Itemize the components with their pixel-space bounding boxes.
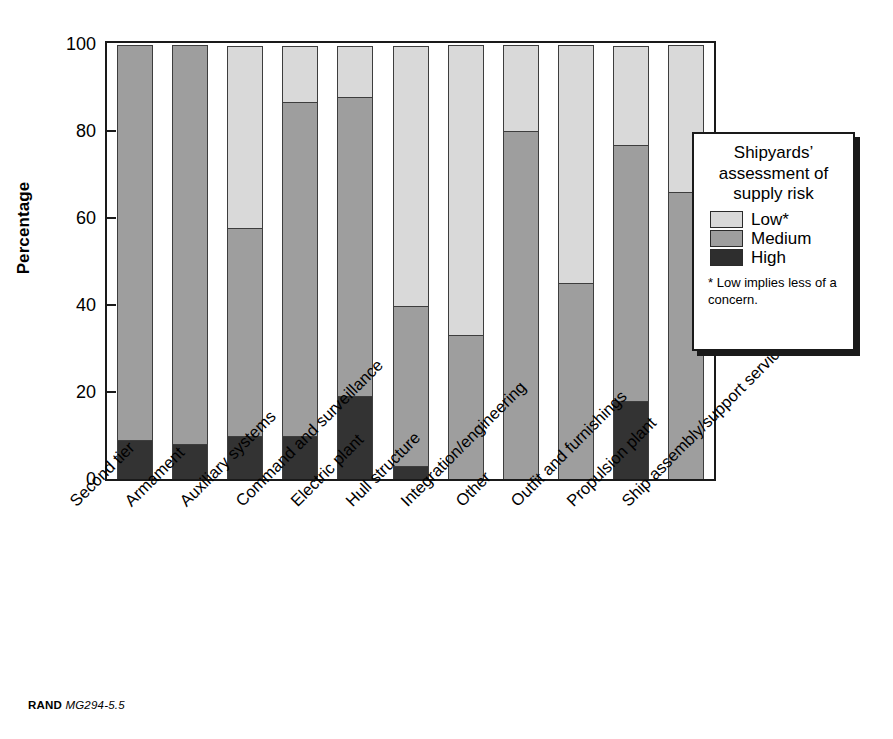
y-axis-tick-labels: 020406080100: [46, 0, 96, 739]
source-code: MG294-5.5: [65, 699, 124, 711]
legend-swatch-icon: [710, 249, 743, 266]
legend-item-label: High: [751, 249, 786, 266]
bar-segment-low[interactable]: [558, 45, 594, 284]
bar-column[interactable]: [503, 44, 539, 479]
legend: Shipyards’ assessment of supply risk Low…: [692, 132, 855, 351]
legend-footnote: * Low implies less of a concern.: [708, 275, 843, 308]
y-axis-title: Percentage: [14, 148, 34, 308]
legend-title: Shipyards’ assessment of supply risk: [704, 143, 843, 205]
bar-column[interactable]: [613, 44, 649, 479]
bar-segment-medium[interactable]: [613, 145, 649, 402]
bar-segment-low[interactable]: [613, 46, 649, 146]
bar-segment-medium[interactable]: [227, 228, 263, 437]
bar-segment-medium[interactable]: [172, 45, 208, 445]
y-axis-tick: [105, 217, 116, 219]
y-axis-tick: [105, 391, 116, 393]
bar-segment-medium[interactable]: [337, 97, 373, 397]
bars-layer: [105, 41, 716, 481]
y-axis-tick-label: 40: [50, 296, 96, 314]
bar-segment-medium[interactable]: [282, 102, 318, 437]
y-axis-tick: [105, 130, 116, 132]
bar-segment-low[interactable]: [503, 45, 539, 132]
bar-column[interactable]: [393, 44, 429, 479]
y-axis-tick: [105, 304, 116, 306]
legend-swatch-icon: [710, 230, 743, 247]
chart-figure: Percentage 020406080100 Second tierArmam…: [0, 0, 893, 739]
bar-segment-low[interactable]: [227, 46, 263, 229]
legend-item[interactable]: Medium: [710, 230, 843, 247]
legend-items: Low*MediumHigh: [704, 211, 843, 266]
legend-item-label: Low*: [751, 211, 789, 228]
legend-item[interactable]: High: [710, 249, 843, 266]
bar-segment-low[interactable]: [337, 46, 373, 98]
bar-column[interactable]: [282, 44, 318, 479]
bar-segment-medium[interactable]: [503, 131, 539, 479]
y-axis-tick-label: 100: [50, 35, 96, 53]
legend-swatch-icon: [710, 211, 743, 228]
legend-item-label: Medium: [751, 230, 811, 247]
y-axis-tick-label: 80: [50, 122, 96, 140]
source-brand: RAND: [28, 699, 62, 711]
bar-segment-low[interactable]: [393, 46, 429, 307]
y-axis-tick-label: 60: [50, 209, 96, 227]
bar-column[interactable]: [337, 44, 373, 479]
bar-segment-low[interactable]: [282, 46, 318, 103]
bar-column[interactable]: [117, 44, 153, 479]
y-axis-tick-label: 20: [50, 383, 96, 401]
source-line: RAND MG294-5.5: [28, 699, 125, 711]
legend-item[interactable]: Low*: [710, 211, 843, 228]
bar-segment-low[interactable]: [448, 45, 484, 336]
bar-segment-medium[interactable]: [117, 45, 153, 441]
bar-column[interactable]: [172, 44, 208, 479]
